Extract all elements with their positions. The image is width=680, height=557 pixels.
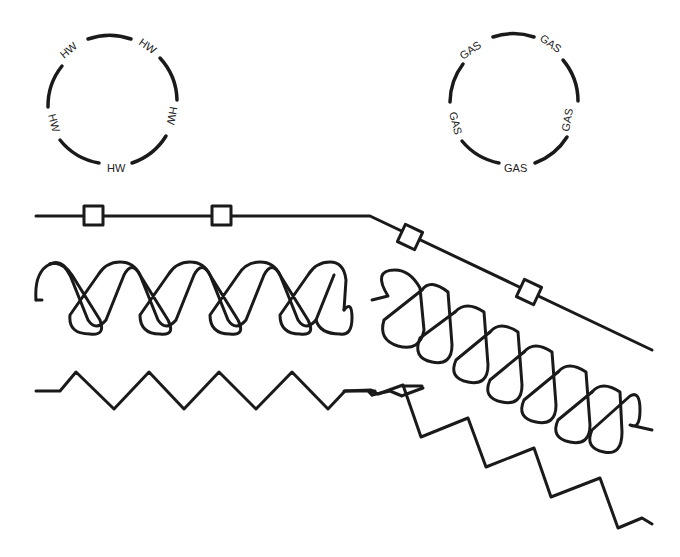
svg-text:HW: HW <box>107 162 126 174</box>
square-markers <box>84 206 542 305</box>
svg-text:GAS: GAS <box>447 110 465 136</box>
svg-text:GAS: GAS <box>559 107 575 132</box>
svg-text:HW: HW <box>137 36 159 57</box>
zigzag-angled <box>344 385 652 528</box>
svg-text:GAS: GAS <box>538 32 564 55</box>
diagram-canvas: HW HW HW HW HW GAS GAS GAS GAS GAS <box>0 0 680 557</box>
batt-insulation-angled <box>372 270 652 453</box>
zigzag-straight <box>36 372 372 409</box>
svg-text:HW: HW <box>58 39 80 60</box>
batt-insulation-straight <box>36 262 352 334</box>
svg-text:HW: HW <box>165 106 180 127</box>
svg-text:HW: HW <box>46 112 62 133</box>
svg-text:GAS: GAS <box>504 162 527 174</box>
svg-text:GAS: GAS <box>457 38 483 61</box>
pipe-line <box>36 216 652 350</box>
